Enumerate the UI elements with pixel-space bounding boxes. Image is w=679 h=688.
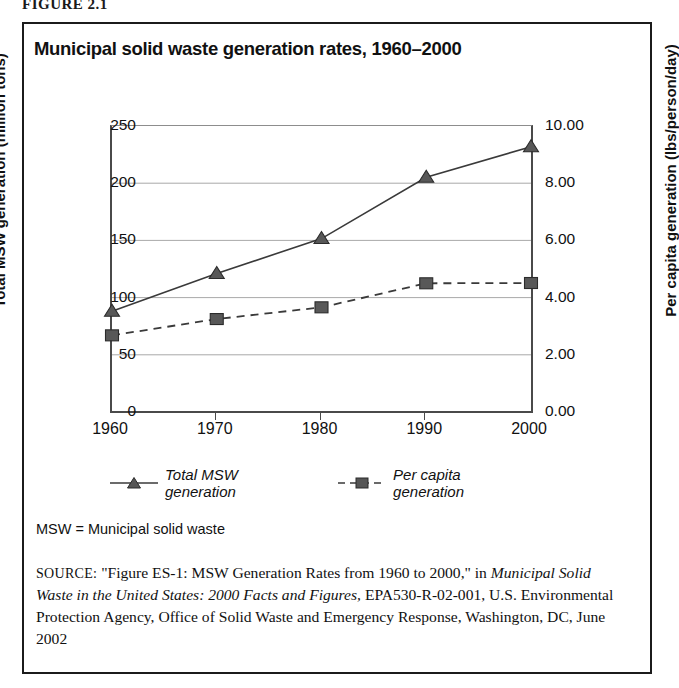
figure-number-label: FIGURE 2.1 <box>22 0 108 10</box>
left-axis-tick: 200 <box>76 173 136 191</box>
chart-canvas <box>112 126 531 410</box>
right-axis-tick: 10.00 <box>545 116 615 134</box>
data-point-marker <box>106 330 119 341</box>
square-marker-icon <box>338 476 386 490</box>
x-axis-tick-mark <box>215 413 216 420</box>
plot-area <box>110 125 533 413</box>
series-line-0 <box>112 147 531 312</box>
left-axis-tick: 0 <box>76 402 136 420</box>
data-point-marker <box>315 302 328 313</box>
data-point-marker <box>314 232 329 244</box>
left-axis-label: Total MSW generation (million tons) <box>0 1 8 361</box>
legend-item-total-msw: Total MSW generation <box>110 466 312 500</box>
abbreviation-note: MSW = Municipal solid waste <box>36 521 225 537</box>
right-axis-tick: 2.00 <box>545 345 615 363</box>
chart-legend: Total MSW generation Per capita generati… <box>110 466 535 500</box>
left-axis-tick: 150 <box>76 230 136 248</box>
left-axis-tick: 250 <box>76 116 136 134</box>
x-axis-tick: 1970 <box>175 420 255 438</box>
source-prefix: SOURCE: <box>36 566 97 581</box>
chart-title: Municipal solid waste generation rates, … <box>34 38 461 60</box>
x-axis-tick: 1960 <box>70 420 150 438</box>
source-citation: SOURCE: "Figure ES-1: MSW Generation Rat… <box>36 562 626 651</box>
right-axis-tick: 4.00 <box>545 288 615 306</box>
data-point-marker <box>210 314 223 325</box>
data-point-marker <box>420 278 433 289</box>
right-axis-label: Per capita generation (lbs/person/day) <box>662 1 679 361</box>
legend-label-total-msw: Total MSW generation <box>165 466 312 500</box>
x-axis-tick-mark <box>424 413 425 420</box>
right-axis-tick: 0.00 <box>545 402 615 420</box>
left-axis-tick: 100 <box>76 288 136 306</box>
triangle-marker-icon <box>110 476 158 490</box>
right-axis-tick: 6.00 <box>545 230 615 248</box>
x-axis-tick: 1990 <box>384 420 464 438</box>
legend-item-per-capita: Per capita generation <box>338 466 535 500</box>
left-axis-tick: 50 <box>76 345 136 363</box>
source-part-1: "Figure ES-1: MSW Generation Rates from … <box>97 564 491 581</box>
x-axis-tick: 2000 <box>489 420 569 438</box>
right-axis-tick: 8.00 <box>545 173 615 191</box>
data-point-marker <box>525 278 538 289</box>
x-axis-tick-mark <box>320 413 321 420</box>
x-axis-tick: 1980 <box>280 420 360 438</box>
legend-label-per-capita: Per capita generation <box>393 466 535 500</box>
